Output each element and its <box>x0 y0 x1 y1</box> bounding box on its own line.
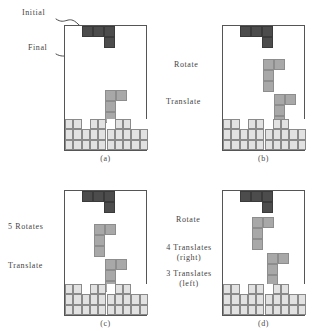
panel-c: 5 Rotates Translate (c) <box>0 165 158 331</box>
final-piece-cell <box>285 94 296 105</box>
stack-cell-filled <box>248 284 256 294</box>
stack-cell-filled <box>256 284 264 294</box>
panel-c-translate-label: Translate <box>8 261 43 271</box>
intermediate-piece-cell <box>263 70 274 81</box>
stack-cell-filled <box>73 140 81 150</box>
intermediate-piece-cell <box>263 81 274 92</box>
stack-cell-filled <box>65 140 73 150</box>
final-piece-cell <box>267 253 278 264</box>
stack-cell-filled <box>281 305 289 315</box>
stack-cell-empty <box>107 119 115 129</box>
final-piece-cell <box>116 90 127 101</box>
stack-cell-filled <box>223 129 231 139</box>
final-piece-cell <box>105 90 116 101</box>
translates-right-line1: 4 Translates <box>158 243 220 253</box>
stack-cell-filled <box>273 305 281 315</box>
stack-cell-empty <box>140 284 148 294</box>
stack-cell-filled <box>140 140 148 150</box>
stack-cell-filled <box>240 140 248 150</box>
initial-piece-cell <box>240 26 251 37</box>
stack-cell-filled <box>90 294 98 304</box>
final-piece-cell <box>105 101 116 112</box>
stack-cell-filled <box>123 119 131 129</box>
stack-cell-filled <box>248 129 256 139</box>
final-piece-cell <box>267 264 278 275</box>
stack-cell-filled <box>82 305 90 315</box>
panel-d-board <box>222 190 305 316</box>
stack-cell-filled <box>298 294 306 304</box>
stack-cell-filled <box>115 294 123 304</box>
tetris-action-figure: Initial Final (a) Rotate Translate <box>0 0 316 331</box>
panel-c-caption: (c) <box>64 319 147 328</box>
stack-cell-filled <box>265 129 273 139</box>
stack-cell-filled <box>223 284 231 294</box>
stack-cell-filled <box>98 305 106 315</box>
stack-cell-filled <box>90 119 98 129</box>
initial-piece-cell <box>93 26 104 37</box>
panel-d-rotate-label: Rotate <box>176 215 200 225</box>
intermediate-piece-cell <box>252 228 263 239</box>
panel-d: Rotate 4 Translates (right) 3 Translates… <box>158 165 316 331</box>
stack-cell-filled <box>73 284 81 294</box>
initial-piece-cell <box>82 191 93 202</box>
stack-cell-filled <box>256 305 264 315</box>
stack-cell-filled <box>98 119 106 129</box>
translates-right-line2: (right) <box>158 253 220 263</box>
stack-cell-filled <box>240 129 248 139</box>
intermediate-piece-cell <box>263 217 274 228</box>
stack-cell-filled <box>123 305 131 315</box>
stack-cell-filled <box>98 129 106 139</box>
initial-piece-cell <box>104 26 115 37</box>
stack-cell-filled <box>131 294 139 304</box>
translates-left-line1: 3 Translates <box>158 269 220 279</box>
panel-c-rotates-label: 5 Rotates <box>8 222 43 232</box>
stack-cell-filled <box>131 140 139 150</box>
panel-d-translates-left-label: 3 Translates (left) <box>158 269 220 289</box>
stack-cell-filled <box>281 284 289 294</box>
stack-cell-filled <box>289 140 297 150</box>
stack-cell-filled <box>273 294 281 304</box>
panel-c-board <box>64 190 147 316</box>
stack-cell-filled <box>223 294 231 304</box>
stack-cell-filled <box>281 140 289 150</box>
stack-cell-filled <box>65 129 73 139</box>
panel-b-board <box>222 25 305 151</box>
stack-cell-filled <box>248 305 256 315</box>
stack-cell-empty <box>107 284 115 294</box>
stack-cell-filled <box>123 294 131 304</box>
stack-cell-filled <box>223 140 231 150</box>
initial-piece-cell <box>104 191 115 202</box>
panel-b-rotate-label: Rotate <box>174 60 198 70</box>
stack-cell-filled <box>223 305 231 315</box>
stack-cell-filled <box>73 294 81 304</box>
stack-cell-filled <box>140 129 148 139</box>
stack-cell-filled <box>123 284 131 294</box>
stack-cell-filled <box>281 129 289 139</box>
stack-cell-filled <box>248 294 256 304</box>
final-piece-cell <box>278 253 289 264</box>
stack-cell-filled <box>73 129 81 139</box>
stack-cell-filled <box>107 294 115 304</box>
stack-cell-filled <box>115 284 123 294</box>
stack-cell-filled <box>90 284 98 294</box>
intermediate-piece-cell <box>274 59 285 70</box>
stack-cell-filled <box>256 119 264 129</box>
stack-cell-filled <box>248 140 256 150</box>
stack-cell-filled <box>65 294 73 304</box>
stack-cell-filled <box>65 119 73 129</box>
initial-piece-cell <box>262 37 273 48</box>
panel-b: Rotate Translate (b) <box>158 0 316 166</box>
panel-d-stack <box>223 284 306 315</box>
stack-cell-filled <box>298 129 306 139</box>
stack-cell-empty <box>298 284 306 294</box>
stack-cell-empty <box>240 284 248 294</box>
panel-a-stack <box>65 119 148 150</box>
stack-cell-filled <box>131 305 139 315</box>
stack-cell-filled <box>281 119 289 129</box>
stack-cell-empty <box>265 284 273 294</box>
panel-b-stack <box>223 119 306 150</box>
stack-cell-filled <box>273 129 281 139</box>
stack-cell-filled <box>90 140 98 150</box>
stack-cell-empty <box>240 119 248 129</box>
stack-cell-filled <box>140 305 148 315</box>
